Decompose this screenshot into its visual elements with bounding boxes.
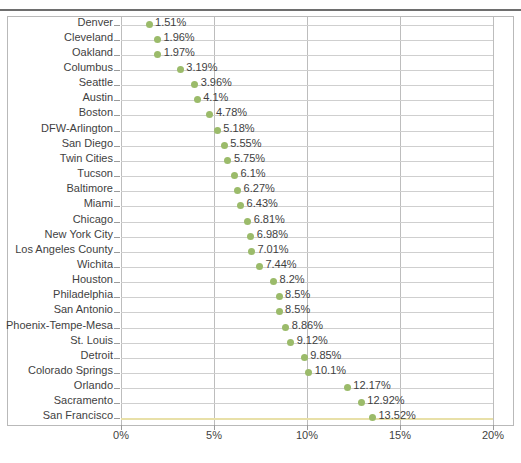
data-point-label: 5.55% bbox=[230, 138, 261, 149]
data-point-label: 9.12% bbox=[297, 335, 328, 346]
data-point bbox=[206, 111, 213, 118]
row-gridline bbox=[121, 85, 493, 86]
data-point bbox=[154, 36, 161, 43]
category-label: Houston bbox=[72, 274, 113, 285]
y-axis-tick bbox=[114, 25, 120, 26]
data-point-label: 1.51% bbox=[155, 17, 186, 28]
category-label: Oakland bbox=[72, 47, 113, 58]
category-label: Baltimore bbox=[67, 183, 113, 194]
data-point bbox=[344, 384, 351, 391]
category-label: New York City bbox=[45, 229, 113, 240]
category-label: Tucson bbox=[77, 168, 113, 179]
data-point bbox=[248, 248, 255, 255]
category-label: Detroit bbox=[81, 350, 113, 361]
x-axis-tick-mark bbox=[493, 425, 494, 430]
y-axis-tick bbox=[114, 388, 120, 389]
row-gridline bbox=[121, 191, 493, 192]
data-point-label: 6.43% bbox=[247, 198, 278, 209]
x-axis-tick-label: 0% bbox=[113, 430, 129, 441]
row-gridline bbox=[121, 252, 493, 253]
data-point bbox=[256, 263, 263, 270]
data-point-label: 1.97% bbox=[164, 47, 195, 58]
y-axis-tick bbox=[114, 55, 120, 56]
category-label: Austin bbox=[82, 92, 113, 103]
category-label: Sacramento bbox=[54, 395, 113, 406]
x-axis-tick-label: 10% bbox=[296, 430, 318, 441]
data-point-label: 5.75% bbox=[234, 153, 265, 164]
data-point-label: 7.01% bbox=[257, 244, 288, 255]
dot-plot-chart: Denver1.51%Cleveland1.96%Oakland1.97%Col… bbox=[0, 0, 521, 463]
y-axis-tick bbox=[114, 146, 120, 147]
data-point bbox=[214, 127, 221, 134]
x-axis-tick-mark bbox=[121, 425, 122, 430]
category-label: Cleveland bbox=[64, 32, 113, 43]
category-label: St. Louis bbox=[70, 335, 113, 346]
category-label: Philadelphia bbox=[53, 289, 113, 300]
data-point bbox=[146, 21, 153, 28]
data-point-label: 9.85% bbox=[310, 350, 341, 361]
y-axis-tick bbox=[114, 373, 120, 374]
category-label: Miami bbox=[84, 198, 113, 209]
y-axis-tick bbox=[114, 40, 120, 41]
y-axis-tick bbox=[114, 418, 120, 419]
category-label: Colorado Springs bbox=[28, 365, 113, 376]
data-point-label: 3.19% bbox=[186, 62, 217, 73]
data-point-label: 6.1% bbox=[240, 168, 265, 179]
data-point-label: 7.44% bbox=[265, 259, 296, 270]
x-axis-tick-label: 20% bbox=[482, 430, 504, 441]
category-label: Phoenix-Tempe-Mesa bbox=[6, 320, 113, 331]
row-gridline bbox=[121, 146, 493, 147]
y-axis-tick bbox=[114, 161, 120, 162]
x-axis-tick-label: 15% bbox=[389, 430, 411, 441]
category-label: Denver bbox=[78, 17, 113, 28]
data-point-label: 8.5% bbox=[285, 289, 310, 300]
data-point bbox=[287, 339, 294, 346]
x-axis-tick-mark bbox=[307, 425, 308, 430]
data-point-label: 12.17% bbox=[353, 380, 390, 391]
data-point-label: 8.2% bbox=[280, 274, 305, 285]
y-axis-tick bbox=[114, 206, 120, 207]
y-axis-tick bbox=[114, 343, 120, 344]
data-point bbox=[270, 278, 277, 285]
y-axis-tick bbox=[114, 85, 120, 86]
data-point bbox=[231, 172, 238, 179]
row-gridline bbox=[121, 237, 493, 238]
y-axis-tick bbox=[114, 70, 120, 71]
clipped-header-text bbox=[0, 0, 521, 7]
category-label: DFW-Arlington bbox=[41, 123, 113, 134]
data-point bbox=[276, 308, 283, 315]
category-label: Twin Cities bbox=[60, 153, 113, 164]
x-axis-tick-mark bbox=[400, 425, 401, 430]
data-point-label: 6.27% bbox=[244, 183, 275, 194]
data-point-label: 10.1% bbox=[315, 365, 346, 376]
category-label: Seattle bbox=[79, 77, 113, 88]
data-point-label: 4.78% bbox=[216, 107, 247, 118]
y-axis-tick bbox=[114, 131, 120, 132]
x-axis-tick-label: 5% bbox=[206, 430, 222, 441]
data-point bbox=[276, 293, 283, 300]
row-gridline bbox=[121, 100, 493, 101]
data-point-label: 12.92% bbox=[367, 395, 404, 406]
data-point bbox=[305, 369, 312, 376]
x-axis: 0%5%10%15%20% bbox=[121, 430, 493, 446]
y-axis-tick bbox=[114, 358, 120, 359]
y-axis-tick bbox=[114, 237, 120, 238]
data-point bbox=[224, 157, 231, 164]
x-axis-tick-mark bbox=[214, 425, 215, 430]
y-axis-tick bbox=[114, 282, 120, 283]
row-gridline bbox=[121, 267, 493, 268]
data-point bbox=[154, 51, 161, 58]
data-point-label: 6.98% bbox=[257, 229, 288, 240]
data-point-label: 8.86% bbox=[292, 320, 323, 331]
y-axis-tick bbox=[114, 403, 120, 404]
data-point bbox=[221, 142, 228, 149]
row-gridline bbox=[121, 403, 493, 404]
data-point-label: 3.96% bbox=[201, 77, 232, 88]
category-label: San Diego bbox=[62, 138, 113, 149]
data-point bbox=[191, 81, 198, 88]
data-point-label: 4.1% bbox=[203, 92, 228, 103]
data-point bbox=[301, 354, 308, 361]
row-gridline bbox=[121, 282, 493, 283]
y-axis-tick bbox=[114, 115, 120, 116]
row-gridline bbox=[121, 388, 493, 389]
